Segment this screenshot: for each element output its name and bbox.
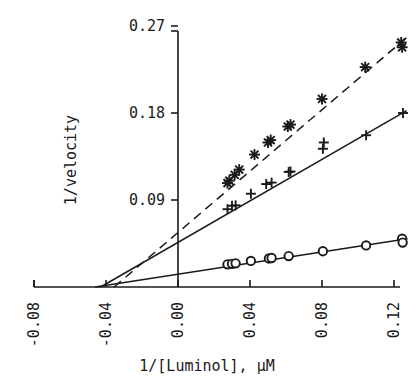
regression-lines bbox=[95, 38, 407, 287]
data-point-star bbox=[265, 135, 276, 146]
data-point-circle bbox=[267, 254, 275, 262]
data-point-star bbox=[249, 149, 260, 160]
y-axis-tick-labels: 0.090.180.27 bbox=[129, 17, 165, 209]
x-tick-label: 0.08 bbox=[313, 302, 331, 338]
data-point-star bbox=[317, 93, 328, 104]
y-tick-label: 0.09 bbox=[129, 191, 165, 209]
x-tick-label: 0.12 bbox=[385, 302, 403, 338]
data-point-star bbox=[234, 164, 245, 175]
fit-line-star bbox=[114, 38, 407, 287]
data-markers bbox=[222, 37, 408, 269]
data-point-plus bbox=[398, 108, 408, 118]
data-point-star bbox=[397, 42, 408, 53]
x-tick-label: -0.04 bbox=[97, 302, 115, 347]
lineweaver-burk-plot: -0.08-0.040.000.040.080.12 0.090.180.27 … bbox=[0, 0, 414, 391]
data-point-plus bbox=[246, 189, 256, 199]
data-point-circle bbox=[398, 238, 406, 246]
data-point-star bbox=[285, 119, 296, 130]
x-axis-ticks bbox=[34, 280, 394, 287]
x-tick-label: -0.08 bbox=[25, 302, 43, 347]
y-tick-label: 0.18 bbox=[129, 104, 165, 122]
data-point-plus bbox=[261, 179, 271, 189]
data-point-circle bbox=[231, 259, 239, 267]
chart-canvas: -0.08-0.040.000.040.080.12 0.090.180.27 … bbox=[0, 0, 414, 391]
data-point-plus bbox=[319, 137, 329, 147]
x-axis-tick-labels: -0.08-0.040.000.040.080.12 bbox=[25, 302, 403, 347]
y-axis-ticks bbox=[171, 26, 178, 200]
data-point-star bbox=[360, 62, 371, 73]
data-point-circle bbox=[247, 257, 255, 265]
y-tick-label: 0.27 bbox=[129, 17, 165, 35]
data-point-circle bbox=[285, 252, 293, 260]
x-tick-label: 0.00 bbox=[169, 302, 187, 338]
x-tick-label: 0.04 bbox=[241, 302, 259, 338]
x-axis-title: 1/[Luminol], μM bbox=[139, 357, 274, 375]
data-point-circle bbox=[362, 241, 370, 249]
y-axis-title: 1/velocity bbox=[62, 115, 80, 205]
data-point-circle bbox=[319, 247, 327, 255]
